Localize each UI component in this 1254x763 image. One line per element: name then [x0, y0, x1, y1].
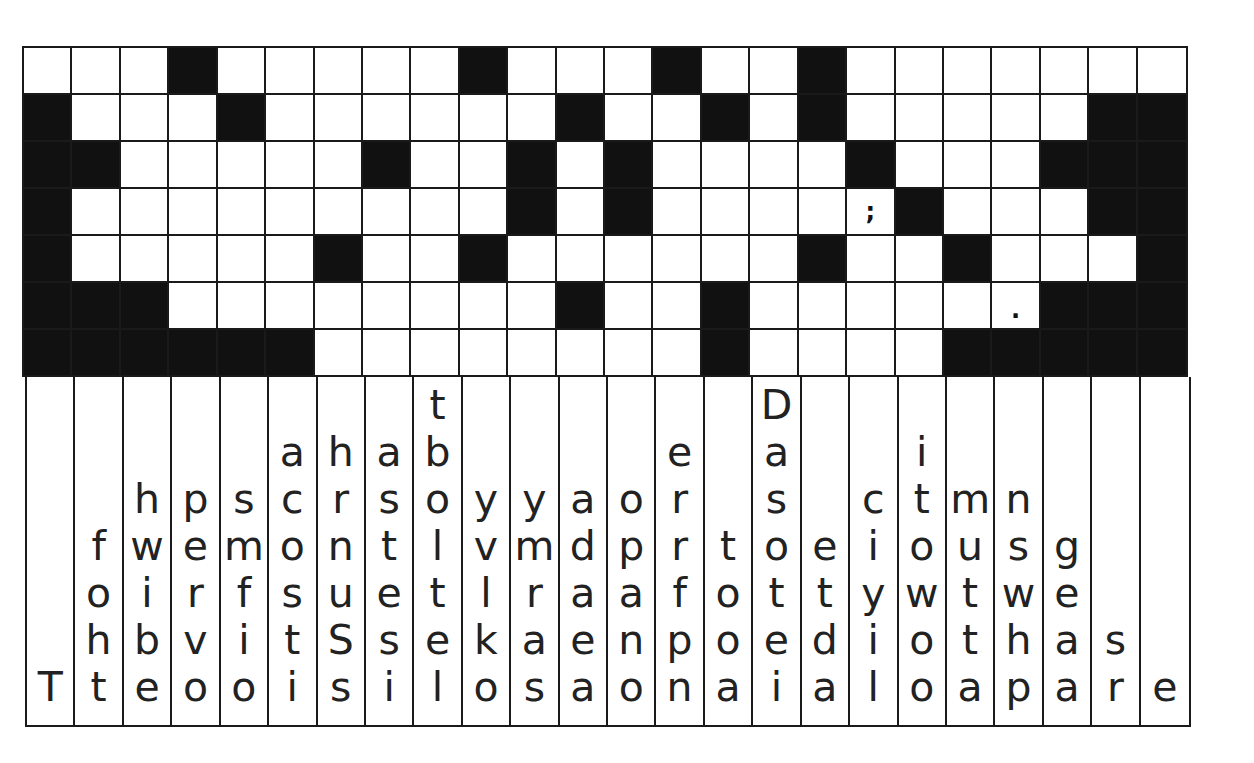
- answer-cell[interactable]: [750, 330, 798, 377]
- answer-cell[interactable]: [653, 236, 701, 283]
- answer-cell[interactable]: [218, 236, 266, 283]
- column-letter[interactable]: t: [284, 617, 300, 664]
- column-letter[interactable]: l: [480, 570, 491, 617]
- answer-cell[interactable]: [557, 330, 605, 377]
- column-letter[interactable]: r: [671, 523, 688, 570]
- column-letter[interactable]: p: [618, 523, 644, 570]
- column-letter[interactable]: o: [715, 570, 740, 617]
- column-letter[interactable]: h: [328, 429, 354, 476]
- column-letter[interactable]: l: [868, 664, 879, 711]
- answer-cell[interactable]: [847, 48, 895, 95]
- column-letter[interactable]: c: [862, 476, 885, 523]
- column-letter[interactable]: s: [1008, 523, 1029, 570]
- column-letter[interactable]: r: [1107, 664, 1124, 711]
- answer-cell[interactable]: [315, 95, 363, 142]
- answer-cell[interactable]: [992, 48, 1040, 95]
- answer-cell[interactable]: [72, 95, 120, 142]
- answer-cell[interactable]: [460, 330, 508, 377]
- column-letter[interactable]: w: [130, 523, 164, 570]
- column-letter[interactable]: m: [950, 476, 990, 523]
- answer-cell[interactable]: [121, 95, 169, 142]
- column-letter[interactable]: a: [570, 570, 595, 617]
- answer-cell[interactable]: [121, 48, 169, 95]
- column-letter[interactable]: i: [287, 664, 298, 711]
- column-letter[interactable]: v: [183, 617, 207, 664]
- answer-cell[interactable]: [944, 189, 992, 236]
- answer-cell[interactable]: [1089, 48, 1137, 95]
- column-letter[interactable]: k: [474, 617, 498, 664]
- column-letter[interactable]: w: [905, 570, 939, 617]
- answer-cell[interactable]: [702, 189, 750, 236]
- answer-cell[interactable]: [896, 48, 944, 95]
- answer-cell[interactable]: [944, 48, 992, 95]
- column-letter[interactable]: d: [812, 617, 838, 664]
- answer-cell[interactable]: [72, 48, 120, 95]
- column-letter[interactable]: i: [868, 523, 879, 570]
- answer-cell[interactable]: [218, 142, 266, 189]
- answer-cell[interactable]: [363, 330, 411, 377]
- answer-cell[interactable]: [605, 95, 653, 142]
- answer-cell[interactable]: [605, 48, 653, 95]
- answer-cell[interactable]: [605, 236, 653, 283]
- answer-cell[interactable]: [315, 189, 363, 236]
- answer-cell[interactable]: [1041, 95, 1089, 142]
- answer-cell[interactable]: [702, 48, 750, 95]
- answer-cell[interactable]: [169, 283, 217, 330]
- column-letter[interactable]: e: [377, 570, 402, 617]
- answer-cell[interactable]: [557, 236, 605, 283]
- answer-cell[interactable]: [799, 142, 847, 189]
- answer-cell[interactable]: [411, 189, 459, 236]
- column-letter[interactable]: e: [667, 429, 692, 476]
- answer-cell[interactable]: [169, 236, 217, 283]
- column-letter[interactable]: y: [474, 476, 498, 523]
- answer-cell[interactable]: [411, 283, 459, 330]
- answer-cell[interactable]: [1041, 48, 1089, 95]
- column-letter[interactable]: e: [183, 523, 208, 570]
- column-letter[interactable]: y: [522, 476, 546, 523]
- column-letter[interactable]: o: [473, 664, 498, 711]
- answer-cell[interactable]: [315, 142, 363, 189]
- column-letter[interactable]: n: [1006, 476, 1032, 523]
- answer-cell[interactable]: [266, 283, 314, 330]
- column-letter[interactable]: u: [957, 523, 983, 570]
- answer-cell[interactable]: [896, 142, 944, 189]
- column-letter[interactable]: h: [134, 476, 160, 523]
- answer-cell[interactable]: [1041, 189, 1089, 236]
- column-letter[interactable]: f: [237, 570, 251, 617]
- column-letter[interactable]: T: [38, 664, 63, 711]
- column-letter[interactable]: o: [909, 664, 934, 711]
- answer-cell[interactable]: [460, 283, 508, 330]
- answer-cell[interactable]: [557, 189, 605, 236]
- answer-cell[interactable]: [896, 283, 944, 330]
- column-letter[interactable]: o: [909, 523, 934, 570]
- column-letter[interactable]: i: [868, 617, 879, 664]
- answer-cell[interactable]: [169, 95, 217, 142]
- column-letter[interactable]: o: [909, 617, 934, 664]
- column-letter[interactable]: e: [812, 523, 837, 570]
- column-letter[interactable]: d: [570, 523, 596, 570]
- answer-cell[interactable]: [702, 142, 750, 189]
- column-letter[interactable]: b: [134, 617, 160, 664]
- answer-cell[interactable]: [750, 189, 798, 236]
- column-letter[interactable]: o: [425, 476, 450, 523]
- column-letter[interactable]: h: [86, 617, 112, 664]
- answer-cell[interactable]: [315, 48, 363, 95]
- column-letter[interactable]: e: [570, 617, 595, 664]
- answer-cell[interactable]: [266, 48, 314, 95]
- answer-cell[interactable]: [460, 95, 508, 142]
- answer-cell[interactable]: [508, 330, 556, 377]
- answer-cell[interactable]: [847, 95, 895, 142]
- column-letter[interactable]: m: [224, 523, 264, 570]
- column-letter[interactable]: y: [861, 570, 885, 617]
- answer-cell[interactable]: [508, 283, 556, 330]
- answer-cell[interactable]: [121, 189, 169, 236]
- answer-cell[interactable]: [169, 142, 217, 189]
- column-letter[interactable]: a: [522, 617, 547, 664]
- column-letter[interactable]: a: [715, 664, 740, 711]
- answer-cell[interactable]: [653, 95, 701, 142]
- column-letter[interactable]: r: [187, 570, 204, 617]
- answer-cell[interactable]: [460, 142, 508, 189]
- column-letter[interactable]: n: [618, 617, 644, 664]
- column-letter[interactable]: o: [231, 664, 256, 711]
- column-letter[interactable]: t: [817, 570, 833, 617]
